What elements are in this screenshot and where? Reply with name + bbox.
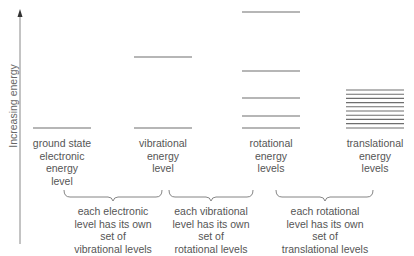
bracket-note-vibrational: each vibrational level has its own set o…	[161, 205, 261, 255]
bracket-electronic-vibrational	[64, 190, 162, 201]
y-axis-label: Increasing energy	[7, 56, 19, 156]
electronic-level-label: ground state electronic energy level	[22, 137, 102, 187]
rotational-levels	[242, 12, 300, 128]
bracket-note-electronic: each electronic level has its own set of…	[63, 205, 163, 255]
translational-levels	[346, 90, 404, 128]
vibrational-level-label: vibrational energy level	[123, 137, 203, 175]
rotational-level-label: rotational energy levels	[231, 137, 311, 175]
bracket-vibrational-rotational	[169, 190, 253, 201]
bracket-note-rotational: each rotational level has its own set of…	[268, 205, 382, 255]
vibrational-levels	[134, 57, 192, 128]
arrow-up-icon	[18, 9, 23, 17]
bracket-rotational-translational	[276, 190, 373, 201]
translational-level-label: translational energy levels	[335, 137, 414, 175]
